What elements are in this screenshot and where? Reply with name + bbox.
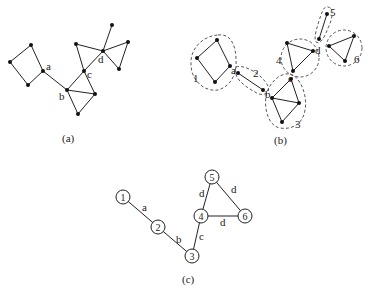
vertex-label-b: b: [265, 88, 271, 100]
svg-text:2: 2: [156, 222, 161, 233]
block-label-6: 6: [354, 53, 360, 65]
edge-5-6: [212, 177, 245, 216]
block-node-1: 1: [116, 190, 130, 204]
vertex: [215, 38, 219, 42]
vertex: [213, 80, 217, 84]
block-label-2: 2: [253, 67, 259, 79]
vertex: [8, 60, 12, 64]
block-label-5: 5: [330, 6, 336, 18]
vertex: [343, 59, 347, 63]
block-node-4: 4: [194, 209, 208, 223]
vertex: [117, 67, 121, 71]
vertex: [76, 112, 80, 116]
block-node-5: 5: [205, 170, 219, 184]
block-label-1: 1: [193, 72, 199, 84]
vertex: [352, 34, 356, 38]
svg-text:5: 5: [210, 172, 215, 183]
block-node-2: 2: [151, 220, 165, 234]
block-node-6: 6: [238, 209, 252, 223]
vertex-label-c: c: [87, 68, 92, 80]
vertex-label-d: d: [98, 53, 104, 65]
vertex: [195, 56, 199, 60]
caption-b: (b): [274, 134, 287, 147]
vertex-label-a: a: [231, 64, 236, 76]
svg-text:1: 1: [121, 192, 126, 203]
vertex-c: [82, 69, 86, 73]
vertex: [110, 23, 114, 27]
edge-label-d: d: [231, 183, 237, 195]
vertex: [93, 92, 97, 96]
edge-label-d: d: [220, 216, 226, 228]
vertex-label-c: c: [288, 72, 293, 84]
edge-label-c: c: [199, 230, 204, 242]
edge-label-b: b: [176, 233, 182, 245]
vertex-label-a: a: [46, 60, 51, 72]
vertex: [74, 42, 78, 46]
panel-b-blocks: a b c d 1 2 3 4 5 6 (b): [191, 6, 362, 147]
vertex-b: [270, 96, 274, 100]
block-node-3: 3: [185, 249, 199, 263]
svg-text:6: 6: [243, 211, 248, 222]
vertex: [26, 83, 30, 87]
svg-text:4: 4: [199, 211, 204, 222]
panel-a-graph: a b c d (a): [8, 23, 130, 145]
panel-c-block-tree: a b c d d d 1 2 3 4 5 6 (c): [116, 170, 252, 286]
vertex: [297, 101, 301, 105]
block-label-3: 3: [295, 118, 301, 130]
vertex-b: [65, 88, 69, 92]
vertex-a-copy: [236, 71, 240, 75]
vertex: [285, 41, 289, 45]
vertex: [126, 40, 130, 44]
block-graph-figure: a b c d (a): [0, 0, 371, 294]
block-label-4: 4: [276, 54, 282, 66]
vertex: [325, 12, 329, 16]
caption-a: (a): [62, 132, 75, 145]
vertex: [29, 43, 33, 47]
vertex-label-d: d: [315, 44, 321, 56]
svg-text:3: 3: [190, 251, 195, 262]
vertex-a: [41, 69, 45, 73]
caption-c: (c): [182, 273, 195, 286]
vertex-label-b: b: [59, 90, 65, 102]
vertex: [280, 120, 284, 124]
vertex-d-copy: [327, 44, 331, 48]
vertex-d-copy: [317, 37, 321, 41]
edge-label-d: d: [199, 187, 205, 199]
edge-label-a: a: [142, 201, 147, 213]
